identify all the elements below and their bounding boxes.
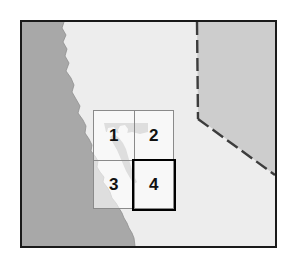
grid-cell-2-label: 2 (149, 127, 158, 144)
grid-cell-3-label: 3 (109, 176, 118, 193)
grid-cell-2[interactable]: 2 (134, 110, 175, 160)
grid-cell-1-label: 1 (109, 127, 118, 144)
grid-cell-1[interactable]: 1 (93, 110, 134, 160)
study-area-grid[interactable]: 1 2 3 4 (93, 110, 174, 209)
grid-cell-4[interactable]: 4 (134, 160, 175, 210)
grid-cell-4-label: 4 (149, 176, 158, 193)
grid-cell-3[interactable]: 3 (93, 160, 134, 210)
map-figure: 1 2 3 4 (0, 0, 297, 264)
map-frame: 1 2 3 4 (20, 20, 277, 248)
